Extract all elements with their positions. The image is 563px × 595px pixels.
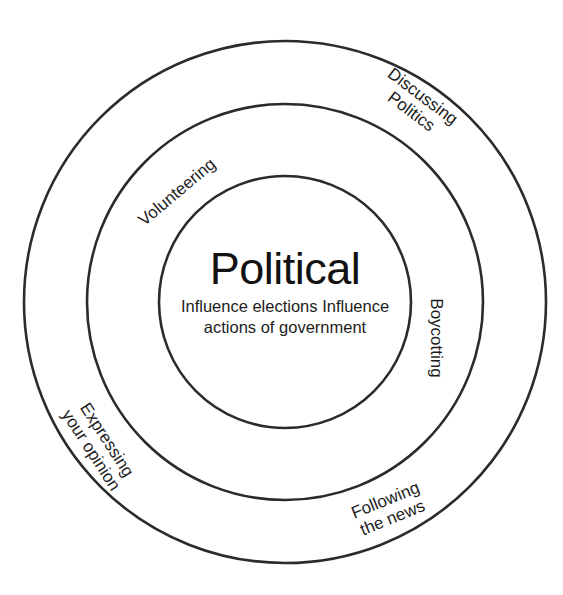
core-text-block: Political Influence elections Influence …	[160, 246, 410, 338]
core-subtext-line-3: government	[279, 318, 366, 336]
core-title: Political	[160, 246, 410, 291]
core-subtext: Influence elections Influence actions of…	[160, 296, 410, 338]
ring-label-boycotting-line-1: Boycotting	[426, 298, 445, 377]
core-subtext-line-1: Influence elections	[181, 297, 318, 315]
ring-label-boycotting: Boycotting	[426, 298, 445, 377]
